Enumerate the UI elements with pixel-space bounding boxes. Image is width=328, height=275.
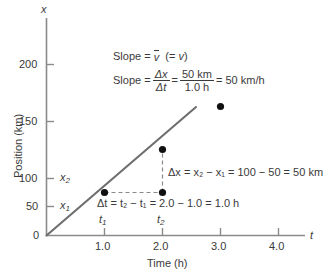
- data-point-t3: [217, 103, 224, 110]
- delta-x-annotation: Δx = x₂ − x₁ = 100 − 50 = 50 km: [168, 167, 323, 178]
- slope-annotation-1: Slope = v (= v): [113, 50, 188, 63]
- y-marker-x1: x1: [60, 200, 70, 213]
- x-axis-title: Time (h): [147, 258, 188, 269]
- y-tick-label-50: 50: [26, 201, 38, 212]
- position-time-figure: x t 200 150 100 50 0 x2 x1 1.0 2.0 3.0 4…: [0, 0, 328, 275]
- corner-point: [159, 189, 166, 196]
- x-tick-label-2: 2.0: [153, 241, 168, 252]
- x-tick-label-4: 4.0: [269, 241, 284, 252]
- y-axis-title: Position (km): [12, 114, 24, 178]
- units-fraction: 50 km 1.0 h: [180, 68, 214, 94]
- x-marker-t1: t1: [99, 214, 107, 227]
- y-axis-symbol: x: [41, 4, 47, 15]
- x-axis-symbol: t: [310, 230, 313, 241]
- delta-t-annotation: Δt = t₂ − t₁ = 2.0 − 1.0 = 1.0 h: [97, 198, 239, 209]
- data-point-t1: [101, 189, 108, 196]
- y-tick-label-200: 200: [19, 59, 37, 70]
- y-marker-x2: x2: [60, 172, 70, 185]
- origin-label: 0: [33, 230, 39, 241]
- chart-canvas: [0, 0, 328, 275]
- y-tick-marks: [47, 65, 55, 207]
- x-tick-label-3: 3.0: [211, 241, 226, 252]
- data-point-t2: [159, 146, 166, 153]
- delta-fraction: Δx Δt: [153, 68, 170, 94]
- x-tick-label-1: 1.0: [95, 241, 110, 252]
- x-tick-marks: [105, 228, 279, 236]
- slope-annotation-2: Slope = Δx Δt = 50 km 1.0 h = 50 km/h: [113, 68, 265, 94]
- x-marker-t2: t2: [157, 214, 165, 227]
